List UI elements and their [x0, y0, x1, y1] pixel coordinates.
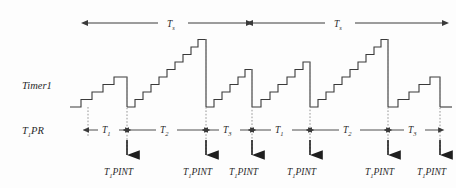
timing-diagram-figure: Ts Ts	[0, 0, 456, 188]
interrupt-label-3: T1PINT	[229, 167, 259, 179]
interrupt-label-2: T1PINT	[183, 167, 213, 179]
interrupt-label-4: T1PINT	[287, 167, 317, 179]
interrupt-label-1: T1PINT	[104, 167, 134, 179]
row-label-timer1: Timer1	[22, 80, 52, 91]
interrupt-label-6: T1PINT	[417, 167, 447, 179]
ramp-5	[310, 40, 388, 108]
row-label-t1pr: T1PR	[22, 125, 45, 138]
ramp-1	[70, 77, 127, 107]
row-labels: Timer1 T1PR	[22, 80, 52, 138]
ramp-6	[388, 77, 440, 107]
timer1-waveform	[70, 40, 452, 108]
ramp-2	[127, 40, 206, 108]
ramp-4	[252, 62, 310, 107]
period-segment-arrows: T1 T2 T3 T1 T2 T3	[89, 121, 439, 137]
timing-diagram-svg: Ts Ts	[0, 0, 456, 188]
ramp-3	[206, 70, 252, 108]
interrupt-labels: T1PINT T1PINT T1PINT T1PINT T1PINT T1PIN…	[104, 167, 447, 179]
event-guide-lines	[88, 39, 440, 152]
interrupt-arrows	[127, 140, 440, 155]
interrupt-label-5: T1PINT	[365, 167, 395, 179]
top-span-arrows: Ts Ts	[88, 14, 443, 31]
